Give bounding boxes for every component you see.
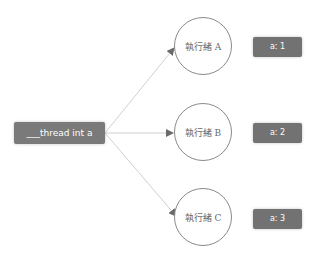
thread-node-a: 執行緒 A [174, 17, 232, 75]
thread-local-variable-box: ___thread int a [14, 122, 105, 144]
thread-label-c: 執行緒 C [185, 211, 222, 224]
thread-node-b: 執行緒 B [174, 103, 232, 161]
value-box-a: a: 1 [253, 37, 302, 57]
edge-to-a [105, 48, 174, 133]
thread-node-c: 執行緒 C [174, 188, 232, 246]
edge-to-c [105, 133, 176, 216]
value-box-c: a: 3 [253, 209, 302, 229]
thread-label-b: 執行緒 B [185, 126, 221, 139]
thread-label-a: 執行緒 A [185, 40, 221, 53]
value-box-b: a: 2 [253, 123, 302, 143]
